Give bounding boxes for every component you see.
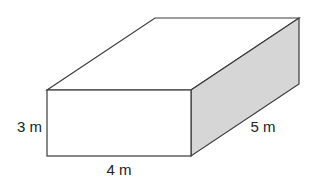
height-label: 3 m <box>17 118 42 135</box>
depth-label: 5 m <box>250 118 275 135</box>
front-face <box>47 90 191 156</box>
rectangular-prism-diagram: 3 m 4 m 5 m <box>0 0 318 184</box>
width-label: 4 m <box>106 161 131 178</box>
